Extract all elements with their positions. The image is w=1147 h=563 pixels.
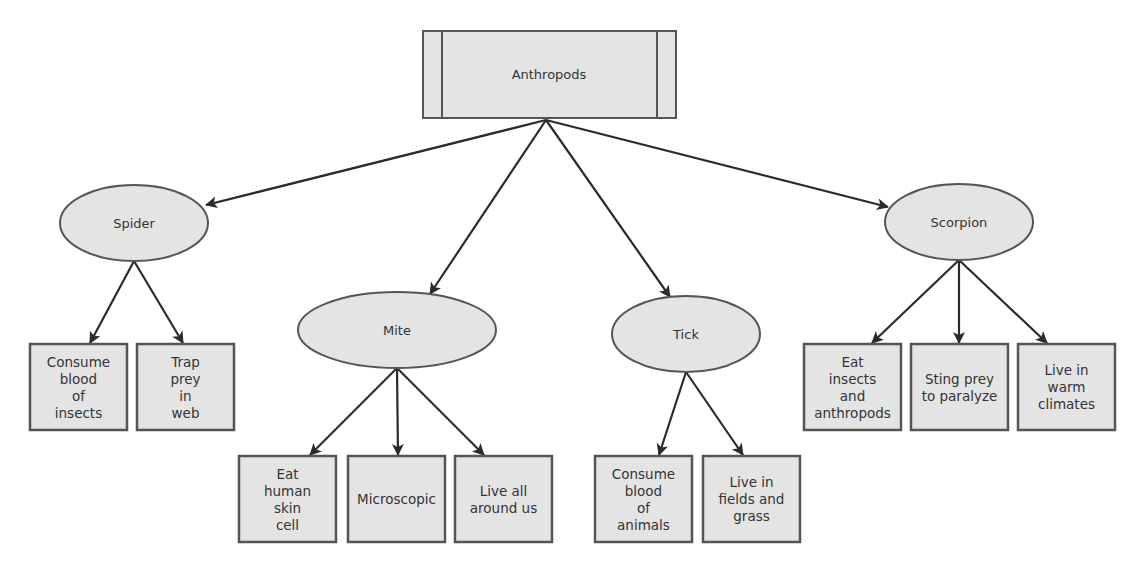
trait-text-line: to paralyze <box>922 388 998 404</box>
trait-text-line: Microscopic <box>357 491 436 507</box>
trait-text-line: insects <box>55 405 102 421</box>
mite-trait-1: Eathumanskincell <box>239 456 336 542</box>
trait-text-line: Live all <box>480 483 528 499</box>
mite-trait-3: Live allaround us <box>455 456 552 542</box>
trait-text-line: blood <box>625 483 662 499</box>
trait-text-line: insects <box>829 371 876 387</box>
trait-text-line: around us <box>470 500 537 516</box>
scorpion-trait-3: Live inwarmclimates <box>1018 344 1115 430</box>
trait-text-line: climates <box>1038 396 1095 412</box>
spider-label: Spider <box>113 216 155 231</box>
edge-mite-to-trait-1 <box>310 368 397 455</box>
trait-text-line: and <box>840 388 865 404</box>
concept-map: Anthropods SpiderConsumebloodofinsectsTr… <box>0 0 1147 563</box>
trait-text-line: warm <box>1048 379 1086 395</box>
tick-trait-2: Live infields andgrass <box>703 456 800 542</box>
spider-trait-1: Consumebloodofinsects <box>30 344 127 430</box>
mite-label: Mite <box>383 323 411 338</box>
trait-text-line: human <box>264 483 311 499</box>
edge-spider-to-trait-1 <box>90 261 134 343</box>
edge-tick-to-trait-2 <box>686 372 743 455</box>
trait-text-line: of <box>72 388 86 404</box>
root-node: Anthropods <box>423 31 676 118</box>
edge-root-to-mite <box>430 120 546 294</box>
nodes: Anthropods SpiderConsumebloodofinsectsTr… <box>30 31 1115 542</box>
category-node-scorpion: Scorpion <box>885 184 1033 260</box>
trait-text-line: of <box>637 500 651 516</box>
tick-label: Tick <box>672 327 699 342</box>
trait-text-line: fields and <box>719 491 785 507</box>
edge-scorpion-to-trait-3 <box>959 260 1047 343</box>
trait-text-line: prey <box>170 371 200 387</box>
trait-text-line: in <box>179 388 191 404</box>
trait-text-line: web <box>172 405 200 421</box>
trait-text-line: cell <box>276 517 299 533</box>
trait-text-line: animals <box>617 517 670 533</box>
trait-text-line: Consume <box>47 354 110 370</box>
trait-text-line: skin <box>274 500 301 516</box>
category-node-tick: Tick <box>612 296 760 372</box>
tick-trait-1: Consumebloodofanimals <box>595 456 692 542</box>
edge-root-to-spider <box>206 120 546 205</box>
edge-spider-to-trait-2 <box>134 261 183 343</box>
root-label: Anthropods <box>512 67 587 82</box>
scorpion-label: Scorpion <box>931 215 988 230</box>
edge-scorpion-to-trait-1 <box>872 260 959 343</box>
trait-text-line: grass <box>733 508 769 524</box>
trait-text-line: Eat <box>841 354 863 370</box>
trait-text-line: Sting prey <box>925 371 994 387</box>
spider-trait-2: Trappreyinweb <box>137 344 234 430</box>
trait-text-line: Live in <box>729 474 773 490</box>
category-node-spider: Spider <box>60 185 208 261</box>
edge-mite-to-trait-3 <box>397 368 484 455</box>
trait-text-line: Eat <box>276 466 298 482</box>
scorpion-trait-2: Sting preyto paralyze <box>911 344 1008 430</box>
trait-text-line: blood <box>60 371 97 387</box>
trait-text-line: Consume <box>612 466 675 482</box>
category-node-mite: Mite <box>298 292 496 368</box>
trait-text-line: Trap <box>170 354 200 370</box>
scorpion-trait-1: Eatinsectsandanthropods <box>804 344 901 430</box>
edge-tick-to-trait-1 <box>659 372 686 455</box>
edge-mite-to-trait-2 <box>397 368 398 455</box>
trait-text-line: Live in <box>1044 362 1088 378</box>
mite-trait-2: Microscopic <box>348 456 445 542</box>
trait-text-line: anthropods <box>814 405 891 421</box>
